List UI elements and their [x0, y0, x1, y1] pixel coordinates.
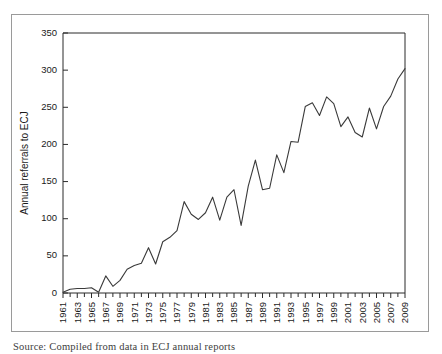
x-tick-label: 1961 [57, 302, 68, 323]
figure-frame: Annual referrals to ECJ 0501001502002503… [11, 14, 429, 332]
x-axis: 1961196319651967196919711973197519771979… [57, 293, 410, 323]
x-tick-label: 1999 [328, 302, 339, 323]
y-tick-label: 250 [41, 101, 57, 112]
y-tick-label: 350 [41, 27, 57, 38]
line-chart: Annual referrals to ECJ 0501001502002503… [12, 15, 428, 331]
x-tick-label: 1987 [243, 302, 254, 323]
plot-frame [63, 33, 405, 293]
y-tick-label: 100 [41, 212, 57, 223]
x-tick-label: 1963 [72, 302, 83, 323]
y-axis-title-text: Annual referrals to ECJ [19, 111, 30, 214]
y-axis: 050100150200250300350 [41, 27, 68, 298]
x-tick-label: 2001 [342, 302, 353, 323]
x-tick-label: 1965 [86, 302, 97, 323]
x-tick-label: 1995 [300, 302, 311, 323]
x-tick-label: 1973 [143, 302, 154, 323]
x-tick-label: 1969 [114, 302, 125, 323]
x-tick-label: 1981 [200, 302, 211, 323]
source-caption: Source: Compiled from data in ECJ annual… [13, 341, 235, 352]
y-axis-title: Annual referrals to ECJ [19, 111, 30, 214]
y-tick-label: 200 [41, 138, 57, 149]
x-tick-label: 1991 [271, 302, 282, 323]
data-series-annual-referrals [63, 69, 405, 293]
x-tick-label: 2007 [385, 302, 396, 323]
x-tick-label: 2005 [371, 302, 382, 323]
x-tick-label: 1997 [314, 302, 325, 323]
x-tick-label: 1975 [157, 302, 168, 323]
y-tick-label: 300 [41, 64, 57, 75]
y-tick-label: 150 [41, 175, 57, 186]
x-tick-label: 2003 [357, 302, 368, 323]
x-tick-label: 1983 [214, 302, 225, 323]
x-tick-label: 1979 [186, 302, 197, 323]
x-tick-label: 1967 [100, 302, 111, 323]
x-tick-label: 1977 [171, 302, 182, 323]
x-tick-label: 1985 [228, 302, 239, 323]
y-tick-label: 0 [52, 287, 57, 298]
series-line [63, 69, 405, 293]
y-tick-label: 50 [46, 249, 57, 260]
x-tick-label: 1971 [129, 302, 140, 323]
x-tick-label: 1989 [257, 302, 268, 323]
chart-svg: Annual referrals to ECJ 0501001502002503… [12, 15, 428, 331]
x-tick-label: 2009 [399, 302, 410, 323]
x-tick-label: 1993 [285, 302, 296, 323]
